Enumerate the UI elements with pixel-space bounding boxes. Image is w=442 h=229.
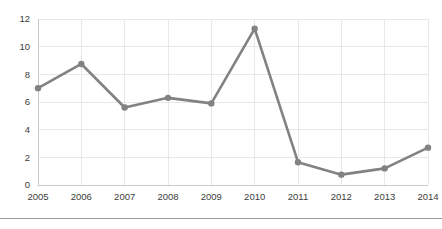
line-chart: 024681012 200520062007200820092010201120… (0, 0, 442, 229)
data-point (251, 25, 257, 31)
y-tick-label: 4 (25, 124, 30, 135)
x-tick-label: 2009 (201, 191, 222, 202)
y-tick-label: 12 (19, 13, 30, 24)
data-point (295, 159, 301, 165)
data-point (425, 144, 431, 150)
x-tick-label: 2007 (114, 191, 135, 202)
data-point (165, 95, 171, 101)
y-tick-label: 2 (25, 152, 30, 163)
data-point (78, 61, 84, 67)
data-point (381, 165, 387, 171)
y-tick-label: 0 (25, 179, 30, 190)
footer-spacer (0, 219, 442, 229)
x-tick-label: 2005 (27, 191, 48, 202)
data-point (121, 104, 127, 110)
plot-area: 024681012 200520062007200820092010201120… (0, 0, 442, 218)
data-point (208, 100, 214, 106)
x-tick-label: 2006 (71, 191, 92, 202)
x-tick-label: 2012 (331, 191, 352, 202)
x-tick-label: 2008 (157, 191, 178, 202)
x-tick-label: 2010 (244, 191, 265, 202)
x-tick-label: 2011 (288, 191, 308, 202)
x-tick-label: 2014 (417, 191, 438, 202)
y-tick-label: 6 (25, 96, 30, 107)
x-tick-label: 2013 (374, 191, 395, 202)
y-tick-label: 10 (19, 41, 30, 52)
data-point (35, 85, 41, 91)
chart-canvas: 024681012 200520062007200820092010201120… (0, 0, 442, 218)
y-tick-label: 8 (25, 69, 30, 80)
data-point (338, 171, 344, 177)
